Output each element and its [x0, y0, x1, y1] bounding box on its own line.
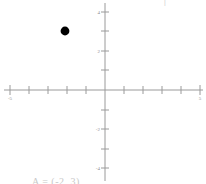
x-tick-label-neg5: -5 [8, 96, 13, 101]
top-label-fragment: | [164, 0, 166, 6]
y-tick-label-neg2: -2 [96, 127, 101, 132]
coordinate-plane-figure: -5 5 4 2 -2 -4 | A = (-2, 3) [0, 0, 206, 184]
coordinate-graph: -5 5 4 2 -2 -4 [0, 0, 206, 184]
y-tick-label-neg4: -4 [96, 166, 101, 171]
y-tick-label-2: 2 [98, 49, 101, 54]
y-tick-label-4: 4 [98, 10, 101, 15]
data-point-a[interactable] [61, 27, 70, 36]
point-caption: A = (-2, 3) [32, 176, 80, 184]
x-tick-label-5: 5 [199, 96, 202, 101]
